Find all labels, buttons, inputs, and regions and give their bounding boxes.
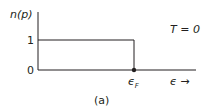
step-function-line (38, 40, 134, 70)
fermi-subscript: F (135, 82, 139, 90)
fermi-energy-label: ϵF (128, 76, 139, 90)
y-tick-1: 1 (27, 35, 34, 46)
y-axis-label: n(p) (10, 9, 33, 20)
fermi-epsilon: ϵ (128, 75, 135, 88)
figure-caption: (a) (94, 95, 109, 106)
temperature-label: T = 0 (170, 24, 200, 35)
fermi-point-dot (132, 68, 136, 72)
x-axis-label: ϵ → (170, 76, 189, 87)
y-tick-0: 0 (27, 65, 34, 76)
